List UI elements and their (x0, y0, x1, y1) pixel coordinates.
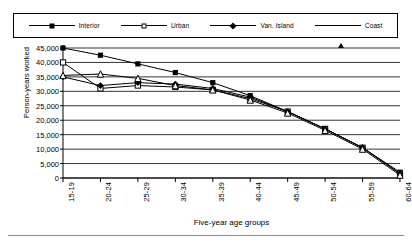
x-axis-tick-label: 50-54 (329, 182, 338, 202)
x-axis-ticks: 15-1920-2425-2930-3435-3940-4445-4950-54… (0, 0, 412, 246)
bottom-divider (8, 235, 404, 236)
x-axis-tick-label: 35-39 (217, 182, 226, 202)
chart-figure: Interior Urban Van. Island Coast Person-… (0, 0, 412, 246)
x-axis-tick-label: 15-19 (67, 182, 76, 202)
x-axis-tick-label: 45-49 (292, 182, 301, 202)
x-axis-tick-label: 55-59 (367, 182, 376, 202)
x-axis-tick-label: 60-64 (404, 182, 412, 202)
x-axis-tick-label: 40-44 (254, 182, 263, 202)
x-axis-label: Five-year age groups (63, 218, 400, 227)
x-axis-tick-label: 25-29 (142, 182, 151, 202)
x-axis-tick-label: 30-34 (179, 182, 188, 202)
x-axis-tick-label: 20-24 (104, 182, 113, 202)
